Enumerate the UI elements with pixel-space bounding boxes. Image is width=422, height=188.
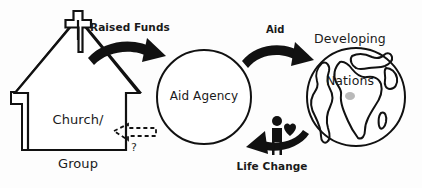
label-church-group-line2: Group xyxy=(36,157,120,172)
arrow-life-change-head xyxy=(246,131,268,154)
diagram-canvas: Raised Funds Aid Developing Nations Chur… xyxy=(0,0,422,188)
person-body xyxy=(272,128,282,155)
label-raised-funds: Raised Funds xyxy=(90,22,170,34)
label-developing-nations-line2: Nations xyxy=(307,74,393,88)
heart-icon xyxy=(284,123,296,136)
label-developing-nations: Developing Nations xyxy=(307,4,393,116)
arrow-raised-funds-head xyxy=(142,38,166,62)
label-aid-agency: Aid Agency xyxy=(162,90,246,103)
person-head xyxy=(272,116,282,126)
label-developing-nations-line1: Developing xyxy=(307,32,393,46)
label-life-change: Life Change xyxy=(236,161,308,173)
label-question-mark: ? xyxy=(131,142,137,154)
label-church-group-line1: Church/ xyxy=(36,113,120,128)
label-church-group: Church/ Group xyxy=(36,84,120,188)
arrow-aid[interactable] xyxy=(242,42,314,68)
label-aid: Aid xyxy=(266,24,285,35)
